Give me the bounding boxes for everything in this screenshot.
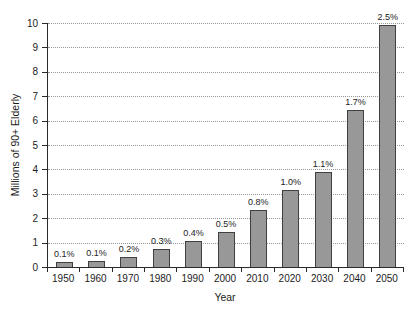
x-tick-mark bbox=[371, 268, 372, 272]
x-tick-mark bbox=[338, 268, 339, 272]
x-tick-mark bbox=[274, 268, 275, 272]
x-tick-mark bbox=[241, 268, 242, 272]
x-tick-label: 1960 bbox=[79, 273, 113, 285]
bar-chart-figure: Millions of 90+ Elderly 012345678910 0.1… bbox=[0, 0, 409, 314]
x-axis-title: Year bbox=[47, 291, 403, 303]
x-tick-mark bbox=[112, 268, 113, 272]
x-tick-label: 2040 bbox=[337, 273, 371, 285]
x-tick-mark bbox=[47, 268, 48, 272]
x-tick-mark bbox=[79, 268, 80, 272]
x-axis: 1950196019701980199020002010202020302040… bbox=[0, 0, 409, 314]
x-tick-mark bbox=[306, 268, 307, 272]
x-tick-mark bbox=[209, 268, 210, 272]
x-tick-label: 1980 bbox=[143, 273, 177, 285]
x-tick-mark bbox=[403, 268, 404, 272]
x-tick-mark bbox=[144, 268, 145, 272]
x-tick-label: 2020 bbox=[273, 273, 307, 285]
x-tick-label: 1990 bbox=[176, 273, 210, 285]
x-tick-label: 2010 bbox=[240, 273, 274, 285]
x-tick-label: 1950 bbox=[46, 273, 80, 285]
x-tick-label: 2030 bbox=[305, 273, 339, 285]
x-tick-mark bbox=[176, 268, 177, 272]
x-tick-label: 1970 bbox=[111, 273, 145, 285]
x-tick-label: 2000 bbox=[208, 273, 242, 285]
x-tick-label: 2050 bbox=[370, 273, 404, 285]
